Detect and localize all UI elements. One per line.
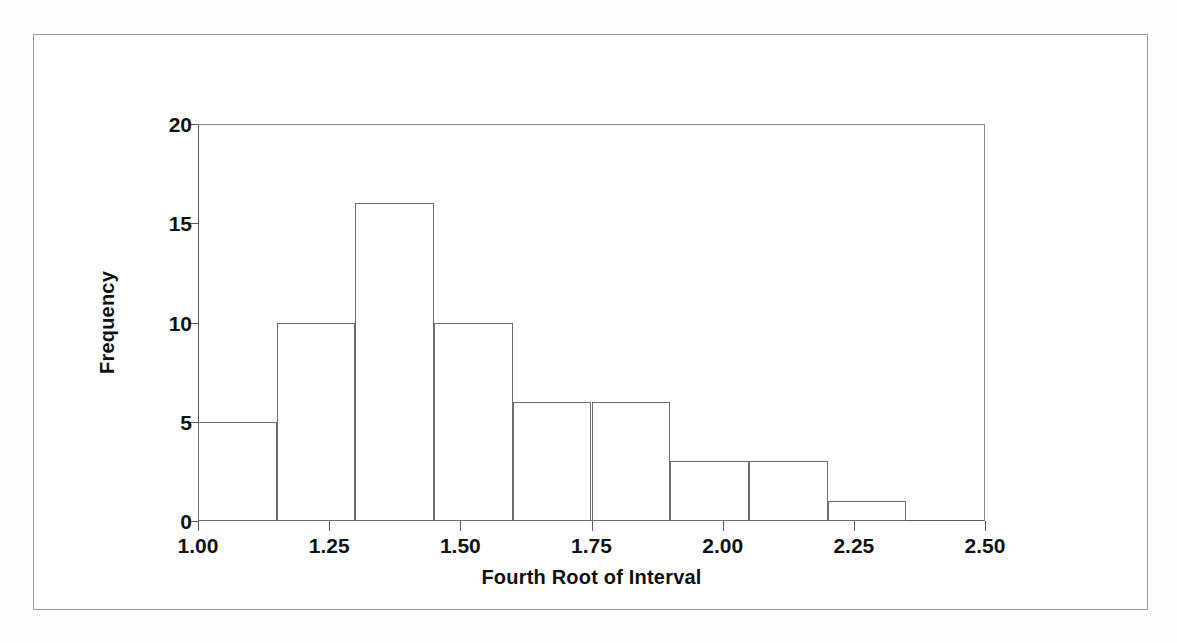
x-tick-mark	[592, 521, 593, 531]
x-axis-title: Fourth Root of Interval	[198, 566, 985, 589]
histogram-bar	[828, 501, 907, 521]
x-tick-mark	[723, 521, 724, 531]
plot-area: 05101520 1.001.251.501.752.002.252.50	[198, 124, 985, 521]
histogram-bar	[749, 461, 828, 521]
x-tick-mark	[854, 521, 855, 531]
y-tick-label: 0	[180, 511, 192, 532]
histogram-bar	[355, 203, 434, 521]
histogram-bar	[670, 461, 749, 521]
x-tick-label: 1.50	[440, 535, 481, 556]
x-tick-label: 2.50	[965, 535, 1006, 556]
x-tick-mark	[460, 521, 461, 531]
histogram-bar	[434, 323, 513, 522]
histogram-bar	[513, 402, 592, 521]
x-tick-label: 1.00	[178, 535, 219, 556]
x-tick-mark	[985, 521, 986, 531]
y-tick-label: 10	[169, 312, 192, 333]
x-tick-mark	[329, 521, 330, 531]
y-axis-title: Frequency	[96, 124, 126, 521]
x-tick-label: 1.75	[571, 535, 612, 556]
x-tick-label: 2.25	[833, 535, 874, 556]
y-tick-label: 20	[169, 114, 192, 135]
y-tick-label: 5	[180, 411, 192, 432]
y-tick-label: 15	[169, 213, 192, 234]
x-tick-label: 1.25	[309, 535, 350, 556]
histogram-bar	[592, 402, 671, 521]
x-tick-mark	[198, 521, 199, 531]
histogram-bar	[277, 323, 356, 522]
figure-root: 05101520 1.001.251.501.752.002.252.50 Fo…	[0, 0, 1177, 643]
histogram-bar	[198, 422, 277, 521]
x-tick-label: 2.00	[702, 535, 743, 556]
